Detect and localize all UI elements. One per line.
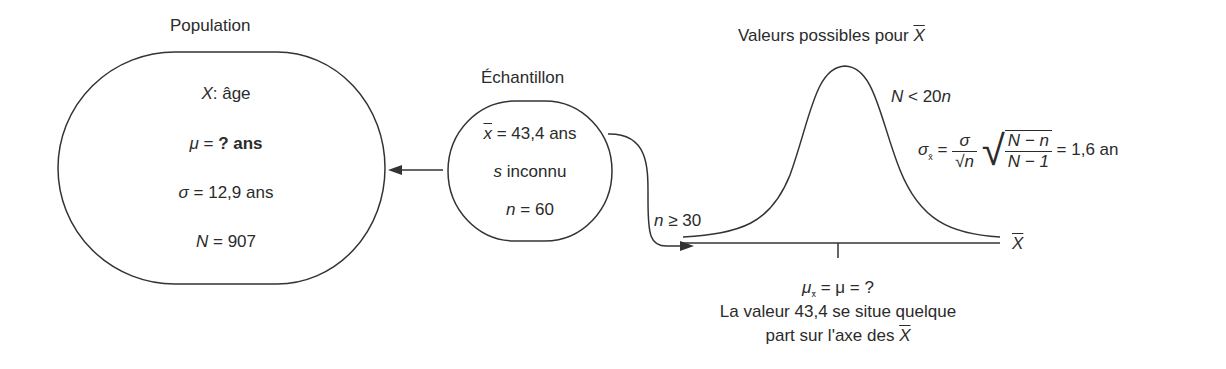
s-symbol: s xyxy=(494,162,503,181)
condition-n: n ≥ 30 xyxy=(654,211,701,231)
sigma-symbol: σ xyxy=(179,183,189,202)
population-size: N = 907 xyxy=(126,232,326,252)
fraction: σ√n xyxy=(952,131,977,172)
mean-label: μx̄ = μ = ? xyxy=(738,278,938,299)
N-symbol: N xyxy=(196,232,208,251)
sample-mean: x = 43,4 ans xyxy=(450,124,610,144)
arrowhead-left-icon xyxy=(388,165,402,175)
population-variable: X: âge xyxy=(126,84,326,104)
n-symbol: n xyxy=(506,200,515,219)
sqrt-icon: √ xyxy=(982,127,1005,174)
variable-symbol: X xyxy=(201,84,212,103)
standard-error-formula: σx̄ = σ√n √N − nN − 1 = 1,6 an xyxy=(918,130,1118,172)
sample-title: Échantillon xyxy=(481,68,564,88)
xbar-symbol: x xyxy=(483,124,492,143)
population-title: Population xyxy=(170,16,250,36)
square-root: √N − nN − 1 xyxy=(982,130,1052,172)
variable-label: : âge xyxy=(213,84,251,103)
population-mean: μ = ? ans xyxy=(126,134,326,154)
axis-label: X xyxy=(1012,234,1023,254)
sample-sd: s inconnu xyxy=(450,162,610,182)
condition-N: N < 20n xyxy=(891,87,951,107)
caption-line1: La valeur 43,4 se situe quelque xyxy=(688,302,988,322)
mu-symbol: μ xyxy=(189,134,198,153)
mu-value: ? ans xyxy=(218,134,262,153)
distribution-title: Valeurs possibles pour X xyxy=(738,26,925,46)
caption-line2: part sur l'axe des X xyxy=(688,326,988,346)
sample-size: n = 60 xyxy=(450,200,610,220)
population-sigma: σ = 12,9 ans xyxy=(126,183,326,203)
